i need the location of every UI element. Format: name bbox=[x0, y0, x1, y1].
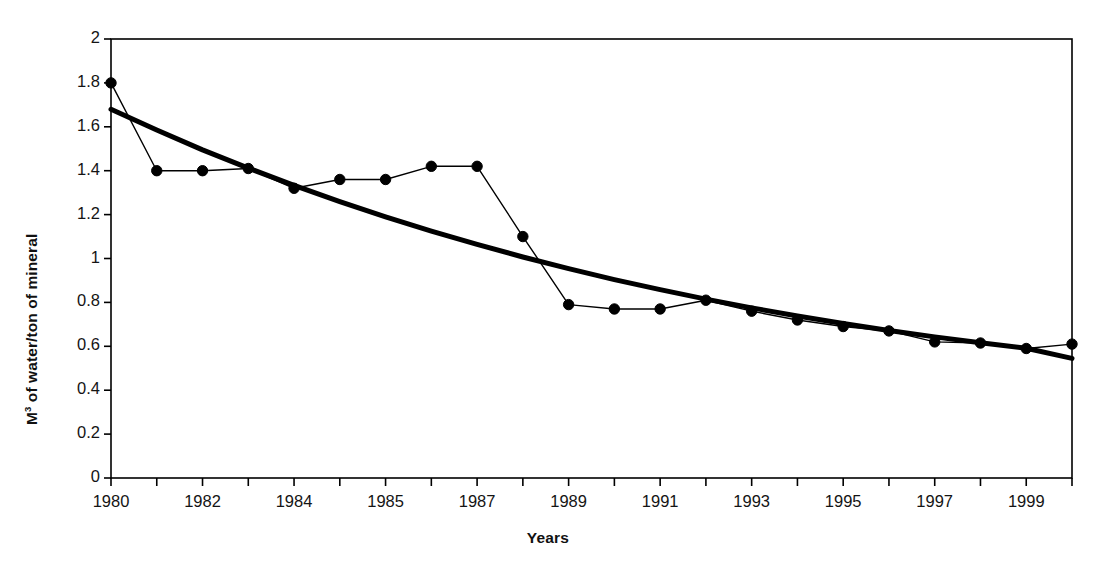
x-axis-ticks bbox=[111, 478, 1072, 486]
chart-figure: M3 of water/ton of mineral 00.20.40.60.8… bbox=[0, 0, 1096, 572]
plot-frame bbox=[111, 39, 1072, 478]
y-axis-ticks bbox=[104, 39, 111, 478]
chart-plot-area bbox=[0, 0, 1096, 572]
